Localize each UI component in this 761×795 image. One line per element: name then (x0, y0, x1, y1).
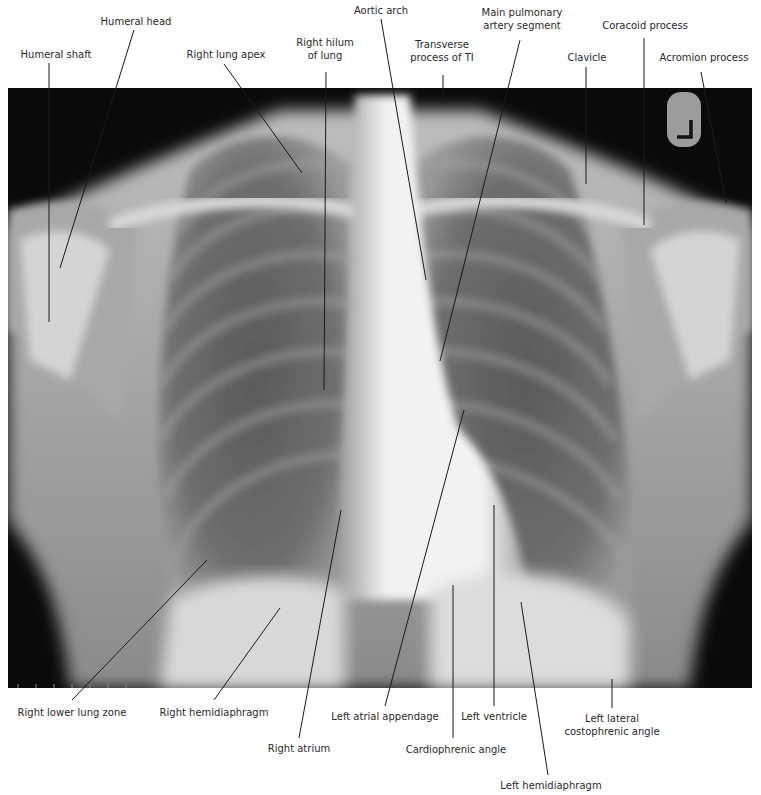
label-coracoid: Coracoid process (602, 19, 688, 32)
label-acromion: Acromion process (660, 51, 749, 64)
label-right-hilum: Right hilumof lung (296, 36, 354, 62)
label-left-atrial-appendage: Left atrial appendage (331, 710, 438, 723)
label-cardiophrenic: Cardiophrenic angle (406, 743, 507, 756)
label-humeral-shaft: Humeral shaft (21, 48, 92, 61)
label-left-ventricle: Left ventricle (461, 710, 527, 723)
label-right-hemidiaphragm: Right hemidiaphragm (160, 706, 269, 719)
label-main-pulmonary: Main pulmonaryartery segment (482, 6, 563, 32)
label-right-atrium: Right atrium (268, 742, 331, 755)
label-transverse-process: Transverseprocess of TI (410, 38, 473, 64)
xray-film (8, 88, 752, 688)
label-aortic-arch: Aortic arch (354, 4, 408, 17)
radiograph (0, 0, 761, 795)
label-left-hemidiaphragm: Left hemidiaphragm (500, 779, 601, 792)
label-clavicle: Clavicle (567, 51, 606, 64)
label-right-lung-apex: Right lung apex (187, 48, 266, 61)
label-left-costophrenic: Left lateralcostophrenic angle (564, 712, 659, 738)
label-right-lower-lung: Right lower lung zone (18, 706, 127, 719)
label-humeral-head: Humeral head (101, 15, 172, 28)
figure: Humeral shaftHumeral headRight lung apex… (0, 0, 761, 795)
